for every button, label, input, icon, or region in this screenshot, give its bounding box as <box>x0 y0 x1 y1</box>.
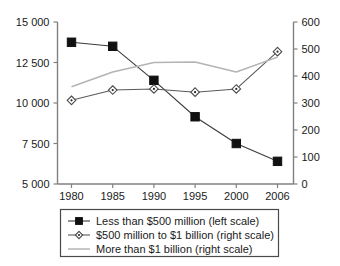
right-axis-tick-label: 100 <box>302 151 320 163</box>
data-point-marker <box>109 42 117 50</box>
chart-figure: 5 0007 50010 00012 50015 000 01002003004… <box>0 0 340 266</box>
x-axis-tick-label: 2000 <box>224 190 248 202</box>
left-axis-tick-labels: 5 0007 50010 00012 50015 000 <box>16 16 50 190</box>
legend-marker <box>76 218 83 225</box>
series-line <box>72 42 278 161</box>
chart-series-1 <box>67 38 281 165</box>
chart-series-layer <box>67 38 282 165</box>
x-axis-tick-label: 2006 <box>265 190 289 202</box>
legend-entries: Less than $500 million (left scale)$500 … <box>68 215 274 255</box>
legend-item-1[interactable]: Less than $500 million (left scale) <box>68 215 259 227</box>
left-axis-tick-label: 12 500 <box>16 57 50 69</box>
data-point-marker <box>232 139 240 147</box>
data-point-marker <box>191 113 199 121</box>
x-axis-tick-labels: 198019851990199520002006 <box>59 190 289 202</box>
right-axis-tick-label: 0 <box>302 178 308 190</box>
data-point-marker <box>150 76 158 84</box>
data-point-marker <box>273 157 281 165</box>
right-axis-tick-label: 200 <box>302 124 320 136</box>
data-point-center <box>153 88 155 90</box>
data-point-center <box>112 89 114 91</box>
right-axis-tick-label: 500 <box>302 43 320 55</box>
chart-axes <box>58 22 294 184</box>
right-axis-tick-label: 400 <box>302 70 320 82</box>
legend-item-label: Less than $500 million (left scale) <box>96 215 259 227</box>
line-chart: 5 0007 50010 00012 50015 000 01002003004… <box>0 0 340 266</box>
data-point-center <box>276 51 278 53</box>
legend-item-3[interactable]: More than $1 billion (right scale) <box>68 243 253 255</box>
legend-item-label: More than $1 billion (right scale) <box>96 243 253 255</box>
data-point-center <box>194 91 196 93</box>
x-axis-tick-label: 1985 <box>100 190 124 202</box>
left-axis-tick-label: 5 000 <box>22 178 50 190</box>
data-point-center <box>70 99 72 101</box>
data-point-marker <box>67 38 75 46</box>
x-axis-tick-label: 1990 <box>142 190 166 202</box>
left-axis-tick-label: 10 000 <box>16 97 50 109</box>
legend-item-label: $500 million to $1 billion (right scale) <box>96 229 274 241</box>
data-point-center <box>235 88 237 90</box>
right-axis-tick-label: 300 <box>302 97 320 109</box>
right-axis-tick-label: 600 <box>302 16 320 28</box>
legend-marker-center <box>78 234 80 236</box>
x-axis-tick-label: 1980 <box>59 190 83 202</box>
chart-series-3 <box>72 57 278 87</box>
chart-legend: Less than $500 million (left scale)$500 … <box>61 210 279 257</box>
legend-item-2[interactable]: $500 million to $1 billion (right scale) <box>68 229 274 241</box>
left-axis-tick-label: 7 500 <box>22 138 50 150</box>
x-axis-tick-label: 1995 <box>183 190 207 202</box>
left-axis-tick-label: 15 000 <box>16 16 50 28</box>
right-axis-tick-labels: 0100200300400500600 <box>302 16 320 190</box>
series-line <box>72 57 278 87</box>
